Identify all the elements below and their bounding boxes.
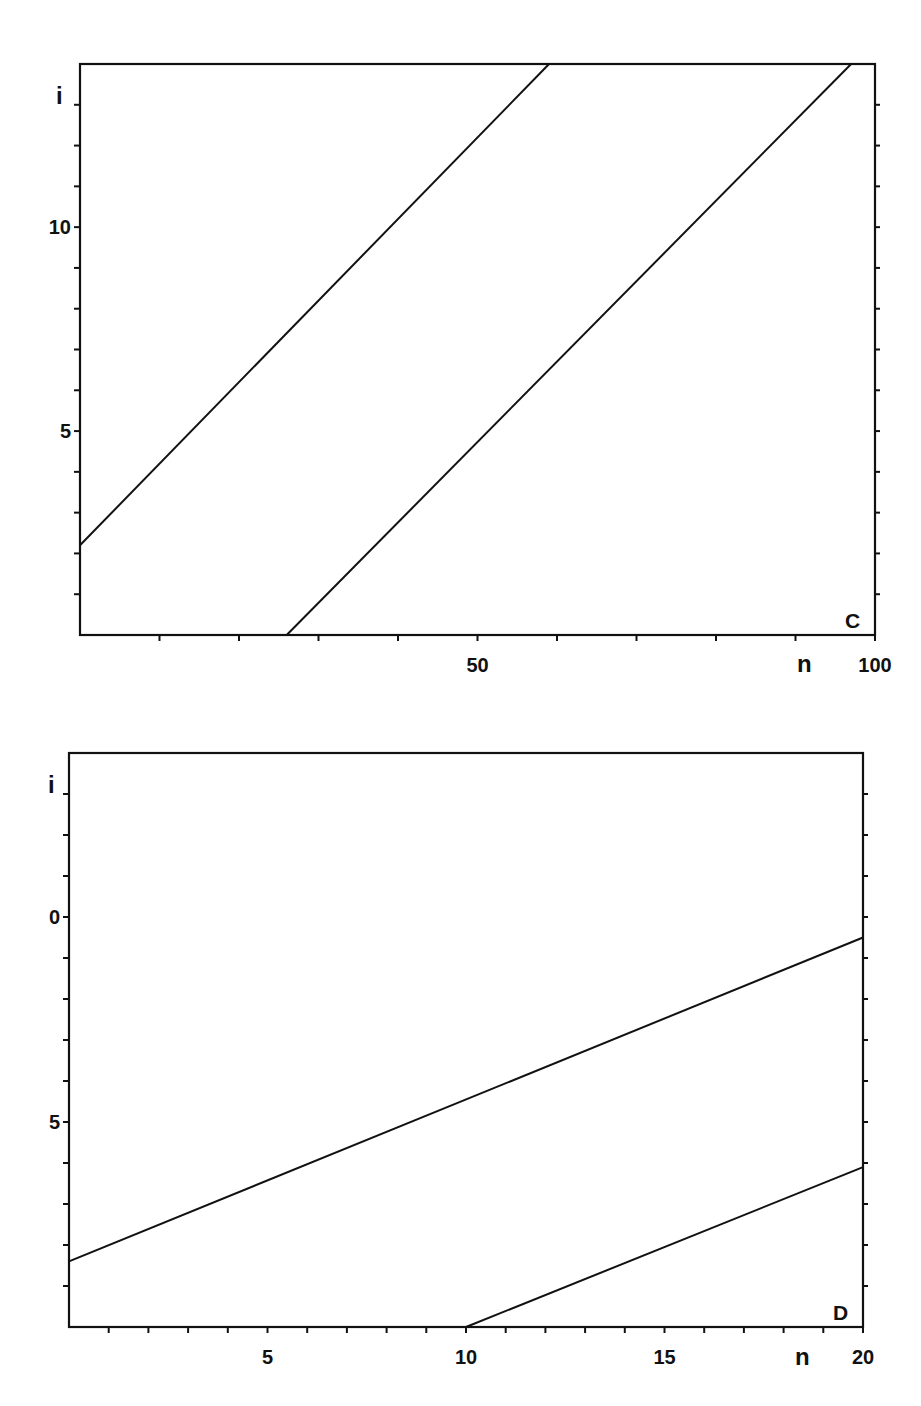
chart-canvas: 50100105niC 510152005niD (0, 0, 921, 1406)
chart-panel-c: 50100105niC (49, 64, 892, 677)
y-tick-label: 5 (49, 1111, 60, 1133)
x-axis-label: n (795, 1343, 810, 1370)
data-series-line (466, 1167, 863, 1327)
plot-frame (80, 64, 875, 635)
y-tick-label: 5 (60, 420, 71, 442)
panel-label: C (845, 609, 860, 632)
y-axis-label: i (48, 771, 55, 798)
x-tick-label: 20 (852, 1346, 874, 1368)
y-tick-label: 0 (49, 906, 60, 928)
x-axis-label: n (797, 650, 812, 677)
x-tick-label: 15 (653, 1346, 675, 1368)
panel-label: D (833, 1301, 848, 1324)
x-tick-label: 5 (262, 1346, 273, 1368)
data-series-line (69, 938, 863, 1262)
y-tick-label: 10 (49, 216, 71, 238)
x-tick-label: 10 (455, 1346, 477, 1368)
x-tick-label: 100 (858, 654, 891, 676)
x-tick-label: 50 (466, 654, 488, 676)
plot-frame (69, 753, 863, 1327)
y-axis-label: i (56, 82, 63, 109)
chart-panel-d: 510152005niD (48, 753, 874, 1370)
data-series-line (80, 64, 549, 545)
data-series-line (287, 64, 851, 635)
